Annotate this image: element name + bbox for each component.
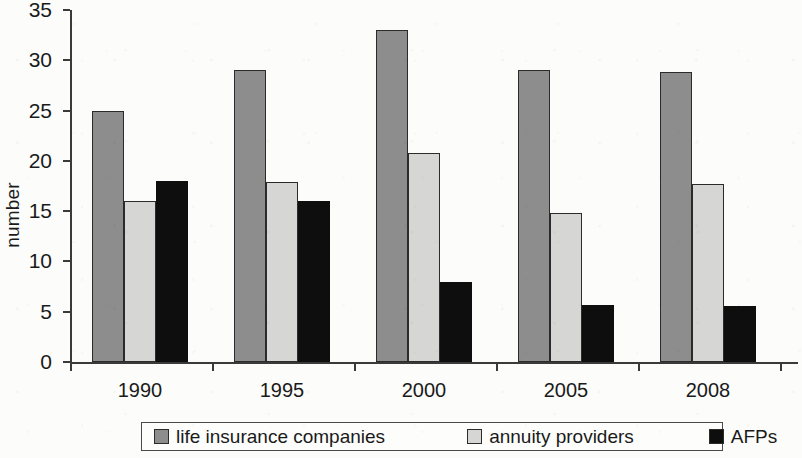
x-tick-end xyxy=(780,362,782,371)
y-axis-line xyxy=(70,10,72,364)
x-axis-label-2000: 2000 xyxy=(364,379,484,402)
series-0-swatch-icon xyxy=(154,429,169,444)
x-axis-label-2008: 2008 xyxy=(648,379,768,402)
bar-1995-series-2 xyxy=(298,201,330,362)
plot-area: 05101520253035 19901995200020052008 xyxy=(70,10,798,363)
bar-2005-series-2 xyxy=(582,305,614,362)
x-axis-label-1990: 1990 xyxy=(80,379,200,402)
y-tick-0 xyxy=(63,361,70,363)
y-tick-label-5: 5 xyxy=(6,301,52,322)
series-2-swatch-icon xyxy=(709,429,724,444)
x-axis-label-2005: 2005 xyxy=(506,379,626,402)
legend-item-life-insurance-companies: life insurance companies xyxy=(154,423,385,450)
bar-2005-series-0 xyxy=(518,70,550,362)
bar-1990-series-2 xyxy=(156,181,188,362)
legend-label-1: annuity providers xyxy=(489,426,634,448)
x-axis-line xyxy=(70,362,798,364)
bar-2000-series-2 xyxy=(440,282,472,362)
y-tick-label-35: 35 xyxy=(6,0,52,20)
bar-1995-series-0 xyxy=(234,70,266,362)
bar-2008-series-1 xyxy=(692,184,724,362)
y-tick-label-0: 0 xyxy=(6,351,52,372)
bar-2008-series-2 xyxy=(724,306,756,362)
bar-2000-series-1 xyxy=(408,153,440,362)
y-tick-label-25: 25 xyxy=(6,100,52,121)
bar-2005-series-1 xyxy=(550,213,582,362)
y-tick-25 xyxy=(63,110,70,112)
y-tick-label-10: 10 xyxy=(6,250,52,271)
y-tick-20 xyxy=(63,160,70,162)
x-tick-2005 xyxy=(496,362,498,371)
legend-item-afps: AFPs xyxy=(709,423,777,450)
x-tick-2008 xyxy=(638,362,640,371)
bar-chart: number 05101520253035 199019952000200520… xyxy=(0,0,802,458)
y-tick-10 xyxy=(63,260,70,262)
chart-legend: life insurance companies annuity provide… xyxy=(141,422,723,451)
y-tick-label-15: 15 xyxy=(6,200,52,221)
bar-1990-series-1 xyxy=(124,201,156,362)
y-tick-30 xyxy=(63,59,70,61)
bar-2000-series-0 xyxy=(376,30,408,362)
bar-1990-series-0 xyxy=(92,111,124,362)
y-tick-label-20: 20 xyxy=(6,150,52,171)
y-tick-35 xyxy=(63,9,70,11)
x-tick-2000 xyxy=(354,362,356,371)
x-axis-label-1995: 1995 xyxy=(222,379,342,402)
y-tick-15 xyxy=(63,210,70,212)
legend-label-0: life insurance companies xyxy=(176,426,385,448)
y-tick-label-30: 30 xyxy=(6,49,52,70)
legend-label-2: AFPs xyxy=(731,426,777,448)
series-1-swatch-icon xyxy=(467,429,482,444)
x-tick-1995 xyxy=(212,362,214,371)
x-tick-1990 xyxy=(70,362,72,371)
legend-item-annuity-providers: annuity providers xyxy=(467,423,634,450)
bar-2008-series-0 xyxy=(660,72,692,362)
bar-1995-series-1 xyxy=(266,182,298,362)
y-tick-5 xyxy=(63,311,70,313)
